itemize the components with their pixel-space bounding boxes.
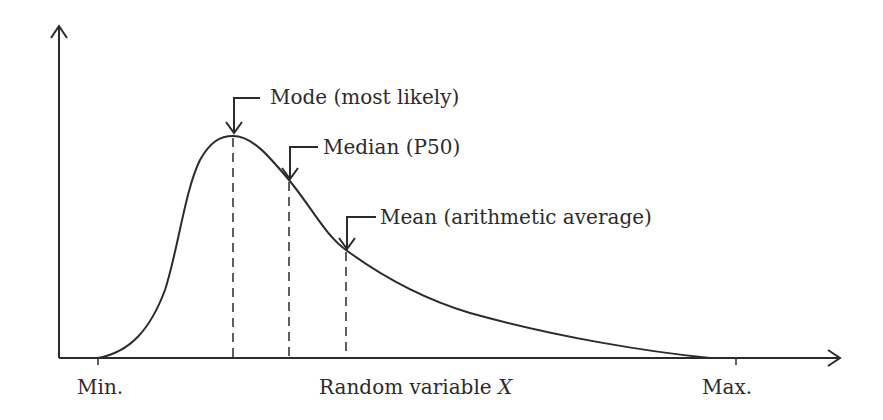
- mean-label: Mean (arithmetic average): [380, 205, 652, 229]
- median-callout: Median (P50): [282, 135, 460, 179]
- x-axis-label: Random variable X: [319, 375, 513, 399]
- y-axis: [51, 26, 67, 358]
- distribution-diagram: Mode (most likely) Median (P50) Mean (ar…: [0, 0, 883, 420]
- mode-label: Mode (most likely): [270, 85, 459, 109]
- max-label: Max.: [702, 375, 752, 399]
- median-label: Median (P50): [323, 135, 460, 159]
- min-label: Min.: [77, 375, 123, 399]
- x-axis-label-text: Random variable: [319, 375, 498, 399]
- mode-callout: Mode (most likely): [226, 85, 459, 133]
- mean-callout: Mean (arithmetic average): [339, 205, 652, 249]
- x-axis: [59, 350, 840, 366]
- density-curve: [98, 136, 710, 358]
- x-axis-variable: X: [496, 375, 513, 399]
